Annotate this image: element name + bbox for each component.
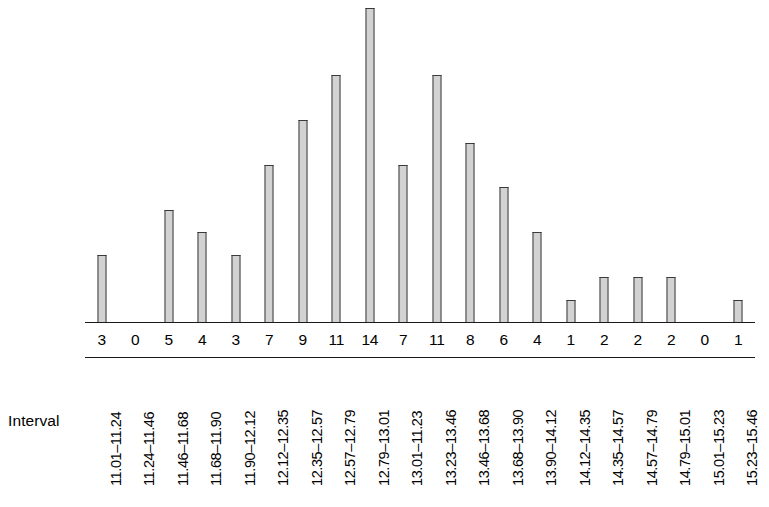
interval-tick-cell: 14.57–14.79 [621, 360, 655, 500]
histogram-bar [231, 255, 240, 322]
interval-tick-cell: 15.01–15.23 [688, 360, 722, 500]
frequency-count-label: 11 [420, 324, 454, 357]
bar-column [286, 8, 320, 322]
frequency-count-label: 8 [454, 324, 488, 357]
bar-column [152, 8, 186, 322]
frequency-count-label: 2 [621, 324, 655, 357]
histogram-bar [332, 75, 341, 322]
interval-tick-cell: 11.68–11.90 [186, 360, 220, 500]
histogram-bar [633, 277, 642, 322]
x-axis-title: Interval [8, 412, 60, 430]
histogram-bar [466, 143, 475, 322]
interval-labels-row: 11.01–11.2411.24–11.4611.46–11.6811.68–1… [85, 360, 755, 500]
bar-column [353, 8, 387, 322]
bar-column [487, 8, 521, 322]
histogram-bar [432, 75, 441, 322]
interval-tick-cell: 11.90–12.12 [219, 360, 253, 500]
histogram-bar [399, 165, 408, 322]
interval-tick-cell: 14.35–14.57 [588, 360, 622, 500]
frequency-count-label: 4 [521, 324, 555, 357]
bar-column [320, 8, 354, 322]
bar-column [219, 8, 253, 322]
counts-separator-rule [85, 357, 755, 358]
histogram-figure: 30543791114711864122201 11.01–11.2411.24… [0, 0, 769, 507]
frequency-count-label: 0 [119, 324, 153, 357]
bar-column [454, 8, 488, 322]
frequency-count-label: 4 [186, 324, 220, 357]
histogram-bar [600, 277, 609, 322]
bar-column [253, 8, 287, 322]
interval-tick-cell: 13.90–14.12 [521, 360, 555, 500]
interval-tick-cell: 11.46–11.68 [152, 360, 186, 500]
frequency-counts-row: 30543791114711864122201 [85, 324, 755, 357]
interval-tick-cell: 12.35–12.57 [286, 360, 320, 500]
histogram-bar [533, 232, 542, 322]
frequency-count-label: 2 [588, 324, 622, 357]
frequency-count-label: 9 [286, 324, 320, 357]
bar-column [119, 8, 153, 322]
bar-column [521, 8, 555, 322]
frequency-count-label: 6 [487, 324, 521, 357]
interval-tick-cell: 14.12–14.35 [554, 360, 588, 500]
frequency-count-label: 5 [152, 324, 186, 357]
histogram-bar [97, 255, 106, 322]
histogram-bar [734, 300, 743, 322]
frequency-count-label: 0 [688, 324, 722, 357]
interval-tick-cell: 13.68–13.90 [487, 360, 521, 500]
interval-tick-label: 15.23–15.46 [744, 360, 760, 486]
bar-column [554, 8, 588, 322]
bar-column [186, 8, 220, 322]
bar-column [420, 8, 454, 322]
bar-column [688, 8, 722, 322]
frequency-count-label: 11 [320, 324, 354, 357]
histogram-bar [198, 232, 207, 322]
histogram-bar [499, 187, 508, 322]
histogram-bar [265, 165, 274, 322]
interval-tick-cell: 13.46–13.68 [454, 360, 488, 500]
axis-baseline-rule [85, 322, 755, 323]
bar-column [722, 8, 756, 322]
frequency-count-label: 1 [554, 324, 588, 357]
frequency-count-label: 1 [722, 324, 756, 357]
interval-tick-cell: 14.79–15.01 [655, 360, 689, 500]
interval-tick-cell: 15.23–15.46 [722, 360, 756, 500]
bar-column [85, 8, 119, 322]
histogram-bar [298, 120, 307, 322]
histogram-bar [365, 8, 374, 322]
histogram-bar [164, 210, 173, 322]
frequency-count-label: 14 [353, 324, 387, 357]
bar-column [588, 8, 622, 322]
frequency-count-label: 7 [253, 324, 287, 357]
frequency-count-label: 7 [387, 324, 421, 357]
interval-tick-cell: 11.01–11.24 [85, 360, 119, 500]
interval-tick-cell: 11.24–11.46 [119, 360, 153, 500]
interval-tick-cell: 13.23–13.46 [420, 360, 454, 500]
interval-tick-cell: 12.57–12.79 [320, 360, 354, 500]
frequency-count-label: 3 [219, 324, 253, 357]
frequency-count-label: 2 [655, 324, 689, 357]
frequency-count-label: 3 [85, 324, 119, 357]
histogram-bar [667, 277, 676, 322]
histogram-bar [566, 300, 575, 322]
plot-area [85, 8, 755, 322]
interval-tick-cell: 12.79–13.01 [353, 360, 387, 500]
interval-tick-cell: 13.01–11.23 [387, 360, 421, 500]
interval-tick-cell: 12.12–12.35 [253, 360, 287, 500]
bar-column [387, 8, 421, 322]
bar-column [655, 8, 689, 322]
bar-column [621, 8, 655, 322]
